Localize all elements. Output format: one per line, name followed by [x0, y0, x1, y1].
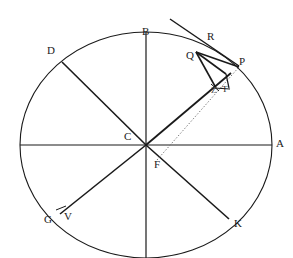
point-label-D: D	[47, 45, 55, 56]
radius-c-t	[146, 73, 231, 145]
point-label-C: C	[124, 131, 131, 142]
point-label-G: G	[44, 214, 52, 225]
point-label-T: T	[222, 84, 228, 95]
dotted-chord-f-p	[157, 67, 239, 160]
point-label-A: A	[276, 138, 284, 149]
point-label-K: K	[234, 218, 242, 229]
radius-c-k	[146, 145, 229, 219]
point-label-Z: Z	[211, 85, 217, 96]
point-label-P: P	[239, 56, 245, 67]
radius-c-d	[62, 62, 146, 145]
point-label-Q: Q	[186, 50, 194, 61]
point-label-F: F	[154, 159, 160, 170]
segment-q-w	[196, 52, 226, 74]
point-label-V: V	[64, 211, 72, 222]
point-label-B: B	[142, 26, 149, 37]
point-label-R: R	[207, 31, 214, 42]
radius-c-g	[60, 145, 146, 214]
geometry-figure: A B C D F G K P Q R T V Z	[0, 0, 293, 258]
